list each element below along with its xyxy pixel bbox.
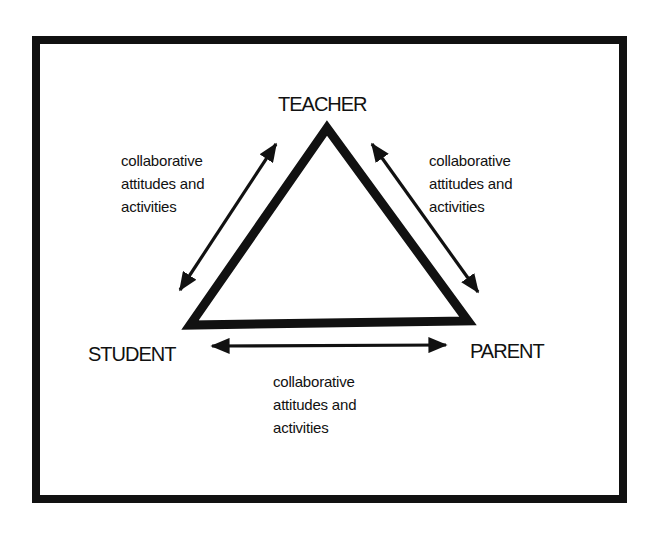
caption-line: attitudes and [273, 393, 356, 416]
student-parent-caption: collaborative attitudes and activities [273, 370, 356, 439]
caption-line: collaborative [429, 149, 512, 172]
parent-label: PARENT [470, 341, 544, 361]
caption-line: activities [429, 195, 512, 218]
caption-line: attitudes and [121, 172, 204, 195]
caption-line: activities [121, 195, 204, 218]
teacher-parent-caption: collaborative attitudes and activities [429, 149, 512, 218]
relationship-triangle [190, 128, 468, 325]
caption-line: collaborative [121, 149, 204, 172]
student-parent-arrow [212, 345, 446, 346]
caption-line: attitudes and [429, 172, 512, 195]
caption-line: collaborative [273, 370, 356, 393]
teacher-student-caption: collaborative attitudes and activities [121, 149, 204, 218]
student-label: STUDENT [88, 344, 175, 364]
teacher-label: TEACHER [278, 94, 367, 114]
caption-line: activities [273, 416, 356, 439]
triangle-diagram [0, 0, 657, 536]
